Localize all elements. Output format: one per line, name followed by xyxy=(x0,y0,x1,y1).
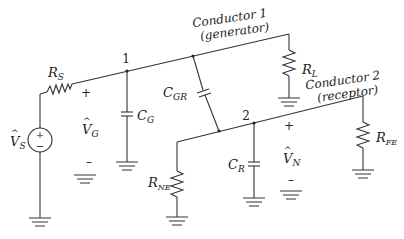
source-plus: + xyxy=(36,129,44,140)
ground-icon xyxy=(278,98,300,106)
label-rne: RNE xyxy=(147,175,171,192)
ground-icon xyxy=(280,191,302,199)
ground-icon xyxy=(29,218,51,226)
voltage-source-vs: + − xyxy=(28,128,52,152)
hat-vg: ^ xyxy=(83,116,91,126)
ground-icon xyxy=(74,175,96,183)
resistor-rne-icon xyxy=(171,171,183,197)
resistor-rfe-icon xyxy=(357,122,369,148)
ground-icon xyxy=(352,170,374,178)
vg-plus: + xyxy=(81,86,91,100)
conductor-2-line xyxy=(171,96,369,217)
label-cgr: CGR xyxy=(163,85,187,102)
source-minus: − xyxy=(36,141,44,152)
node-1-label: 1 xyxy=(122,52,130,66)
crosstalk-circuit-diagram: + − VS ^ RS RL Conductor 1 (generator) 1 xyxy=(0,0,404,239)
vn-minus: – xyxy=(288,173,294,187)
resistor-rl-icon xyxy=(283,50,295,76)
label-rs: RS xyxy=(47,65,64,82)
conductor-1-label: Conductor 1 (generator) xyxy=(191,6,270,44)
vn-plus: + xyxy=(284,119,294,133)
conductor-1-line xyxy=(72,34,295,98)
capacitor-cg xyxy=(121,71,133,162)
label-rfe: RFE xyxy=(375,130,397,147)
ground-icon xyxy=(166,217,188,225)
label-cg: CG xyxy=(137,108,154,125)
ground-icon xyxy=(116,162,138,170)
node-2-label: 2 xyxy=(242,109,250,123)
hat-vs: ^ xyxy=(11,128,19,138)
ground-icon xyxy=(243,198,265,206)
capacitor-cr xyxy=(248,123,260,198)
resistor-rs-icon xyxy=(47,84,72,94)
label-cr: CR xyxy=(228,157,245,174)
vg-minus: – xyxy=(86,155,92,169)
hat-vn: ^ xyxy=(284,145,292,155)
capacitor-cgr xyxy=(193,56,219,131)
